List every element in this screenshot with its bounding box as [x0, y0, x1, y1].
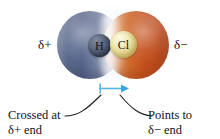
hydrogen-atom-label: H	[95, 40, 104, 52]
leader-line-left	[65, 95, 101, 116]
leader-lines	[0, 0, 220, 139]
leader-line-right	[120, 95, 152, 116]
chlorine-atom: Cl	[110, 31, 137, 58]
dipole-arrow	[96, 82, 130, 95]
hcl-dipole-figure: H Cl δ+ δ− Crossed at δ+ end Points to δ…	[0, 0, 220, 139]
hydrogen-atom: H	[88, 34, 111, 57]
chlorine-atom-label: Cl	[118, 39, 130, 51]
dipole-arrowhead-icon	[121, 85, 129, 93]
